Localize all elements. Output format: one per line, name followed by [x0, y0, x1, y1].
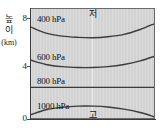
- isobaric-cross-section-figure: 높 이 (km) 8 4 0 400 hPa 600 hPa 800 hPa 1…: [0, 0, 160, 132]
- high-pressure-marker: 고: [86, 108, 100, 121]
- y-tick-label-8: 8: [15, 13, 27, 23]
- isobar-label-600: 600 hPa: [37, 52, 65, 62]
- y-tick-label-4: 4: [15, 61, 27, 71]
- y-axis-unit: (km): [1, 37, 17, 48]
- isobar-label-400: 400 hPa: [37, 14, 65, 24]
- low-pressure-marker: 저: [86, 7, 100, 20]
- isobar-label-800: 800 hPa: [37, 76, 65, 86]
- y-tick-label-0: 0: [15, 113, 27, 123]
- y-axis-label-line2: 이: [1, 25, 17, 36]
- isobar-curve-400-hpa: [31, 23, 155, 37]
- isobar-label-1000: 1000 hPa: [37, 101, 69, 111]
